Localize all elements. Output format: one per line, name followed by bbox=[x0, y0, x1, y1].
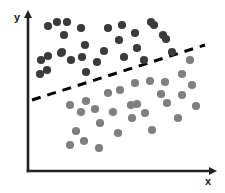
data-point bbox=[162, 35, 170, 43]
data-point bbox=[128, 114, 136, 122]
data-point bbox=[60, 31, 68, 39]
data-point bbox=[148, 126, 156, 134]
data-point bbox=[53, 18, 61, 26]
data-point bbox=[188, 81, 196, 89]
data-point bbox=[192, 102, 200, 110]
data-point bbox=[78, 53, 86, 61]
data-point bbox=[96, 119, 104, 127]
data-point bbox=[81, 41, 89, 49]
data-point bbox=[157, 90, 165, 98]
data-point bbox=[163, 99, 171, 107]
data-point bbox=[80, 137, 88, 145]
data-point bbox=[77, 24, 85, 32]
y-axis-label: y bbox=[14, 12, 20, 23]
data-point bbox=[104, 24, 112, 32]
data-point bbox=[66, 101, 74, 109]
scatter-plot-figure: y x bbox=[0, 0, 225, 193]
data-point bbox=[133, 44, 141, 52]
y-axis-arrowhead bbox=[24, 10, 32, 18]
data-point bbox=[186, 56, 194, 64]
data-point bbox=[109, 108, 117, 116]
x-axis-arrowhead bbox=[209, 167, 217, 175]
data-point bbox=[104, 89, 112, 97]
x-axis-label: x bbox=[205, 176, 211, 187]
data-point bbox=[93, 58, 101, 66]
plot-canvas bbox=[0, 0, 225, 193]
data-point bbox=[66, 141, 74, 149]
data-point bbox=[140, 56, 148, 64]
data-point bbox=[95, 144, 103, 152]
data-point bbox=[141, 109, 149, 117]
data-point bbox=[72, 127, 80, 135]
data-point bbox=[100, 47, 108, 55]
data-point bbox=[168, 48, 176, 56]
data-point bbox=[44, 52, 52, 60]
data-point bbox=[37, 56, 45, 64]
data-point bbox=[178, 91, 186, 99]
data-point bbox=[120, 53, 128, 61]
data-point bbox=[161, 78, 169, 86]
series-0 bbox=[36, 18, 176, 78]
data-point bbox=[44, 22, 52, 30]
data-point bbox=[67, 56, 75, 64]
data-point bbox=[174, 114, 182, 122]
data-point bbox=[36, 70, 44, 78]
data-point bbox=[43, 66, 51, 74]
data-points bbox=[36, 18, 200, 152]
data-point bbox=[114, 129, 122, 137]
data-point bbox=[91, 105, 99, 113]
data-point bbox=[58, 48, 66, 56]
data-point bbox=[116, 86, 124, 94]
data-point bbox=[82, 97, 90, 105]
data-point bbox=[77, 108, 85, 116]
data-point bbox=[178, 70, 186, 78]
data-point bbox=[131, 79, 139, 87]
data-point bbox=[115, 36, 123, 44]
data-point bbox=[118, 21, 126, 29]
data-point bbox=[82, 68, 90, 76]
data-point bbox=[63, 18, 71, 26]
data-point bbox=[146, 77, 154, 85]
data-point bbox=[131, 29, 139, 37]
data-point bbox=[127, 101, 135, 109]
data-point bbox=[150, 21, 158, 29]
